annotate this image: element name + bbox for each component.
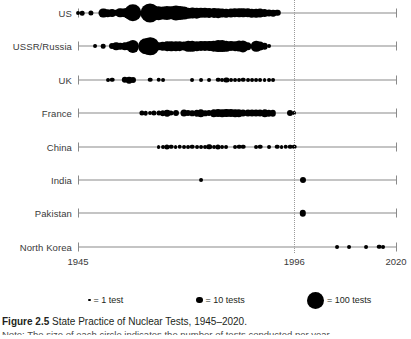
test-bubble — [267, 44, 271, 48]
row-axis-line — [78, 180, 396, 181]
axis-end-cap-left — [78, 109, 79, 118]
axis-end-cap-right — [396, 176, 397, 185]
test-bubble — [274, 10, 280, 16]
x-tick-2020: 2020 — [385, 256, 406, 267]
axis-end-cap-right — [396, 75, 397, 84]
axis-end-cap-left — [78, 209, 79, 218]
figure-title: State Practice of Nuclear Tests, 1945–20… — [52, 316, 247, 327]
test-bubble — [241, 144, 246, 149]
test-bubble — [224, 145, 228, 149]
row-label-france: France — [42, 108, 72, 119]
axis-end-cap-left — [78, 142, 79, 151]
figure-caption: Figure 2.5 State Practice of Nuclear Tes… — [2, 316, 407, 335]
row-label-pakistan: Pakistan — [35, 208, 72, 219]
test-bubble — [335, 245, 339, 249]
row-label-us: US — [59, 8, 72, 19]
test-bubble — [110, 77, 115, 82]
test-bubble — [267, 145, 271, 149]
test-bubble — [364, 245, 368, 249]
row-label-uk: UK — [59, 74, 72, 85]
legend-item-1: = 1 test — [88, 288, 123, 312]
axis-end-cap-left — [78, 242, 79, 251]
legend-label: = 10 tests — [206, 295, 245, 305]
test-bubble — [270, 110, 276, 116]
figure-number: Figure 2.5 — [2, 316, 49, 327]
test-bubble — [207, 78, 211, 82]
axis-end-cap-left — [78, 42, 79, 51]
x-tick-1945: 1945 — [67, 256, 88, 267]
test-bubble — [300, 177, 306, 183]
test-bubble — [161, 78, 165, 82]
axis-end-cap-right — [396, 42, 397, 51]
axis-end-cap-left — [78, 176, 79, 185]
test-bubble — [130, 77, 136, 83]
legend-item-10: = 10 tests — [196, 288, 245, 312]
row-label-india: India — [51, 175, 72, 186]
test-bubble — [173, 110, 179, 116]
legend-label: = 1 test — [94, 295, 124, 305]
figure-note: Note: The size of each circle indicates … — [2, 329, 407, 335]
legend-item-100: = 100 tests — [307, 288, 371, 312]
axis-end-cap-right — [396, 209, 397, 218]
legend-bubble-icon — [88, 299, 91, 302]
axis-end-cap-right — [396, 109, 397, 118]
row-label-ussr-russia: USSR/Russia — [13, 41, 72, 52]
test-bubble — [381, 245, 385, 249]
test-bubble — [93, 44, 97, 48]
axis-end-cap-right — [396, 9, 397, 18]
test-bubble — [199, 178, 203, 182]
axis-end-cap-right — [396, 142, 397, 151]
test-bubble — [191, 78, 195, 82]
figure-nuclear-tests: USUSSR/RussiaUKFranceChinaIndiaPakistanN… — [0, 0, 411, 339]
test-bubble — [258, 144, 263, 149]
test-bubble — [88, 10, 93, 15]
legend-bubble-icon — [196, 297, 203, 304]
test-bubble — [124, 4, 141, 21]
axis-end-cap-left — [78, 75, 79, 84]
test-bubble — [101, 44, 106, 49]
chart-legend: = 1 test= 10 tests= 100 tests — [0, 288, 411, 312]
chart-plot-area: USUSSR/RussiaUKFranceChinaIndiaPakistanN… — [0, 0, 411, 268]
row-axis-line — [78, 213, 396, 214]
test-bubble — [80, 11, 85, 16]
legend-bubble-icon — [307, 292, 324, 309]
test-bubble — [271, 78, 275, 82]
x-tick-1996: 1996 — [284, 256, 305, 267]
test-bubble — [300, 210, 306, 216]
axis-end-cap-right — [396, 242, 397, 251]
test-bubble — [199, 78, 203, 82]
row-label-china: China — [47, 141, 72, 152]
legend-label: = 100 tests — [327, 295, 371, 305]
row-label-north-korea: North Korea — [20, 241, 72, 252]
test-bubble — [347, 245, 351, 249]
test-bubble — [148, 77, 153, 82]
reference-line-1996 — [294, 0, 295, 253]
